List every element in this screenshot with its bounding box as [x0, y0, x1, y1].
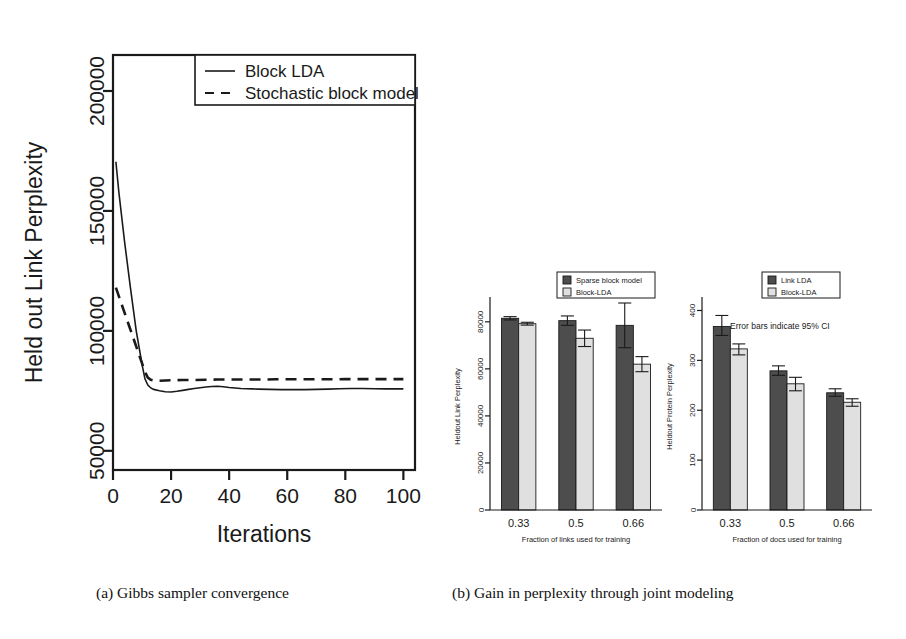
bar-0-0 [501, 318, 518, 510]
figure-container: 50000100000150000200000020406080100Itera… [0, 0, 906, 639]
y-tick-label: 20000 [477, 451, 486, 474]
x-tick-label: 20 [159, 484, 182, 507]
x-axis-title: Iterations [217, 521, 312, 547]
y-tick-label: 400 [689, 303, 698, 317]
y-tick-label: 80000 [477, 310, 486, 333]
y-tick-label: 100 [689, 453, 698, 467]
bar-1-0 [730, 349, 747, 510]
category-label-0: 0.33 [508, 517, 529, 529]
x-tick-label: 80 [334, 484, 357, 507]
series-line-0 [116, 162, 403, 392]
caption-panel-b: (b) Gain in perplexity through joint mod… [452, 584, 734, 602]
y-tick-label: 300 [689, 353, 698, 367]
category-label-1: 0.5 [568, 517, 583, 529]
bar-0-1 [770, 371, 787, 510]
y-axis-title: Heldout Protein Perplexity [665, 363, 674, 450]
series-line-1 [116, 288, 403, 381]
bar-0-2 [616, 325, 633, 510]
x-axis-title: Fraction of links used for training [522, 535, 630, 544]
y-axis-title: Held out Link Perplexity [21, 141, 47, 383]
legend-label-1: Block-LDA [781, 288, 816, 297]
legend-label-0: Sparse block model [576, 276, 642, 285]
legend-swatch-0 [768, 276, 776, 284]
y-tick-label: 0 [477, 507, 486, 512]
y-tick-label: 150000 [86, 176, 109, 246]
category-label-2: 0.66 [833, 517, 854, 529]
bar-1-1 [576, 338, 593, 510]
y-tick-label: 60000 [477, 357, 486, 380]
bar-0-0 [713, 326, 730, 510]
y-tick-label: 40000 [477, 404, 486, 427]
line-chart-svg: 50000100000150000200000020406080100Itera… [0, 0, 450, 570]
caption-panel-a: (a) Gibbs sampler convergence [96, 584, 289, 602]
legend-label-1: Block-LDA [576, 288, 611, 297]
bar-1-1 [787, 384, 804, 510]
y-axis-title: Heldout Link Perplexity [453, 368, 462, 445]
annotation-text: Error bars indicate 95% CI [730, 321, 830, 331]
x-tick-label: 100 [386, 484, 421, 507]
legend-swatch-1 [768, 288, 776, 296]
x-tick-label: 0 [107, 484, 119, 507]
panel-b-bar-charts: 020000400006000080000Heldout Link Perple… [452, 255, 906, 555]
y-tick-label: 200000 [86, 56, 109, 126]
category-label-2: 0.66 [623, 517, 644, 529]
category-label-1: 0.5 [779, 517, 794, 529]
x-axis-title: Fraction of docs used for training [732, 535, 841, 544]
panel-a-gibbs-convergence: 50000100000150000200000020406080100Itera… [0, 0, 450, 570]
y-tick-label: 0 [689, 507, 698, 512]
bar-1-0 [519, 324, 536, 510]
legend-swatch-1 [563, 288, 571, 296]
legend-swatch-0 [563, 276, 571, 284]
y-tick-label: 200 [689, 403, 698, 417]
x-tick-label: 40 [217, 484, 240, 507]
bar-0-1 [559, 321, 576, 510]
category-label-0: 0.33 [720, 517, 741, 529]
plot-frame [113, 55, 415, 470]
bar-0-2 [827, 393, 844, 510]
bar-charts-svg: 020000400006000080000Heldout Link Perple… [452, 255, 906, 555]
y-tick-label: 50000 [86, 422, 109, 480]
bar-1-2 [844, 402, 861, 510]
legend-label-1: Stochastic block model [245, 84, 419, 103]
legend-label-0: Link LDA [781, 276, 811, 285]
x-tick-label: 60 [276, 484, 299, 507]
legend-label-0: Block LDA [245, 62, 325, 81]
bar-1-2 [633, 364, 650, 510]
y-tick-label: 100000 [86, 296, 109, 366]
